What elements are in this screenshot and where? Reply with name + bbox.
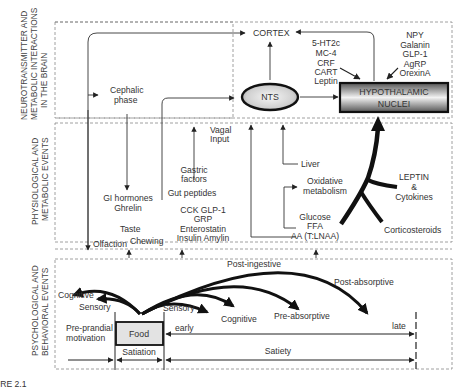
liver-label: Liver: [301, 159, 320, 169]
leptin-label: LEPTIN: [399, 172, 429, 182]
liver-arrow: [283, 125, 298, 164]
gut-peptide-list: CCK GLP-1 GRP Enterostatin Insulin Amyli…: [177, 205, 230, 243]
cortex-label: CORTEX: [253, 28, 290, 38]
ghrelin-label: Ghrelin: [114, 203, 142, 213]
physio-section-title: PHYSIOLOGICAL AND METABOLIC EVENTS: [30, 137, 50, 225]
pre-absorptive-label: Pre-absorptive: [274, 311, 330, 321]
late-label: late: [392, 321, 406, 331]
gut-peptides-label: Gut peptides: [168, 188, 217, 198]
svg-text:BEHAVIORAL EVENTS: BEHAVIORAL EVENTS: [40, 267, 50, 356]
satiation-label: Satiation: [122, 347, 156, 357]
svg-text:METABOLIC INTERACTIONS: METABOLIC INTERACTIONS: [29, 7, 39, 120]
brain-section-title: NEUROTRANSMITTER AND METABOLIC INTERACTI…: [19, 7, 49, 120]
psych-section-title: PSYCHOLOGICAL AND BEHAVIORAL EVENTS: [30, 265, 50, 356]
svg-text:5-HT2c: 5-HT2c: [312, 38, 341, 48]
brain-section: [55, 22, 233, 118]
cognitive-right-label: Cognitive: [221, 314, 257, 324]
cytokines-label: Cytokines: [395, 192, 433, 202]
olfaction-label: Olfaction: [93, 239, 127, 249]
pre-prandial-label: Pre-prandial: [66, 323, 113, 333]
food-label: Food: [129, 329, 149, 339]
chewing-label: Chewing: [130, 236, 164, 246]
cephalic-phase-label: Cephalic: [110, 85, 144, 95]
svg-text:NPY: NPY: [406, 30, 424, 40]
gi-hormones-label: GI hormones: [103, 193, 153, 203]
oxidative-label: Oxidative: [307, 176, 343, 186]
svg-text:FFA: FFA: [307, 221, 323, 231]
mediators-right-arrow: [387, 68, 398, 79]
oxidative-arrow: [284, 187, 297, 228]
mediators-left: 5-HT2c MC-4 CRF CART Leptin: [312, 38, 341, 86]
cephalic-phase-label-2: phase: [114, 95, 138, 105]
mediators-left-arrow: [340, 68, 360, 79]
metabolism-label: metabolism: [303, 186, 347, 196]
svg-text:GLP-1: GLP-1: [403, 49, 428, 59]
svg-text:PHYSIOLOGICAL AND: PHYSIOLOGICAL AND: [30, 138, 40, 225]
nutrients-list: Glucose FFA AA (T:LNAA): [291, 212, 339, 241]
post-absorptive-label: Post-absorptive: [334, 277, 394, 287]
cognitive-left-label: Cognitive: [58, 290, 94, 300]
svg-text:OrexinA: OrexinA: [399, 68, 430, 78]
svg-text:METABOLIC EVENTS: METABOLIC EVENTS: [40, 137, 50, 221]
hypothalamic-label-2: NUCLEI: [378, 99, 410, 109]
gut-to-nts-arrow: [162, 98, 234, 200]
mediators-right: NPY Galanin GLP-1 AgRP OrexinA: [399, 30, 430, 78]
gastric-factors-label-2: factors: [181, 174, 207, 184]
motivation-label: motivation: [66, 333, 105, 343]
nts-label: NTS: [261, 92, 279, 102]
hormonal-signal-arrow: [341, 116, 397, 224]
post-ingestive-label: Post-ingestive: [227, 259, 281, 269]
svg-text:AA (T:LNAA): AA (T:LNAA): [291, 231, 339, 241]
svg-text:Insulin Amylin: Insulin Amylin: [177, 233, 230, 243]
satiety-cascade-diagram: NEUROTRANSMITTER AND METABOLIC INTERACTI…: [0, 0, 473, 388]
hypothalamic-label: HYPOTHALAMIC: [359, 87, 429, 97]
sensory-cognitive-arcs: [74, 273, 367, 314]
vagal-input-label-2: Input: [210, 134, 230, 144]
corticosteroids-label: Corticosteroids: [384, 225, 441, 235]
early-label: early: [175, 323, 194, 333]
taste-label: Taste: [120, 224, 141, 234]
svg-text:MC-4: MC-4: [315, 48, 336, 58]
leptin-amp-label: &: [411, 182, 417, 192]
svg-text:IN THE BRAIN: IN THE BRAIN: [39, 53, 49, 108]
svg-text:GRP: GRP: [194, 214, 213, 224]
sensory-left-label: Sensory: [79, 302, 111, 312]
satiety-label: Satiety: [265, 346, 292, 356]
nutrients-to-nts-arrow: [251, 125, 296, 237]
figure-caption: URE 2.1: [0, 379, 27, 388]
svg-text:NEUROTRANSMITTER AND: NEUROTRANSMITTER AND: [19, 11, 29, 120]
svg-text:PSYCHOLOGICAL AND: PSYCHOLOGICAL AND: [30, 265, 40, 356]
sensory-right-label: Sensory: [163, 303, 195, 313]
svg-text:Leptin: Leptin: [314, 76, 338, 86]
